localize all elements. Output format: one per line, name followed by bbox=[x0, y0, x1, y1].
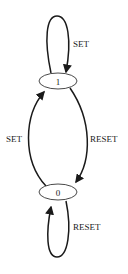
state-node-1-label: 1 bbox=[56, 77, 61, 87]
edge-label-1-1: SET bbox=[73, 39, 90, 49]
state-diagram: SET RESET SET RESET 1 0 bbox=[0, 0, 128, 274]
edge-0-to-0-reset bbox=[48, 201, 69, 257]
edge-label-0-1: SET bbox=[6, 134, 23, 144]
edge-0-to-1-set bbox=[29, 92, 47, 186]
edge-label-1-0: RESET bbox=[90, 134, 118, 144]
state-node-0-label: 0 bbox=[56, 188, 61, 198]
edge-1-to-1-set bbox=[47, 16, 69, 73]
edge-label-0-0: RESET bbox=[73, 222, 101, 232]
edge-1-to-0-reset bbox=[70, 88, 87, 182]
